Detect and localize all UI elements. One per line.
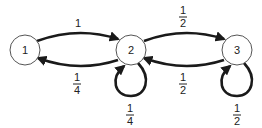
node-1: 1 <box>10 35 40 65</box>
node-2: 2 <box>116 35 146 65</box>
edge-2-to-1 <box>38 58 118 66</box>
node-1-label: 1 <box>22 44 28 56</box>
edge-1-to-2-label: 1 <box>75 17 81 29</box>
edge-2-to-3-label: 1 2 <box>179 4 187 29</box>
edge-2-to-3-den: 2 <box>180 17 186 29</box>
edge-3-self-num: 1 <box>234 102 240 114</box>
edge-3-to-2-label: 1 2 <box>179 71 187 96</box>
markov-diagram: 1 2 3 1 1 4 1 4 1 2 1 2 1 2 <box>0 0 262 128</box>
edge-2-to-3-num: 1 <box>180 4 186 16</box>
edge-2-to-1-label: 1 4 <box>73 71 81 96</box>
node-3-label: 3 <box>234 44 240 56</box>
edge-2-to-3 <box>144 33 224 41</box>
edge-2-to-1-den: 4 <box>74 84 80 96</box>
edge-3-to-2 <box>144 58 224 66</box>
edge-3-to-2-num: 1 <box>180 71 186 83</box>
node-3: 3 <box>222 35 252 65</box>
edge-3-self-loop <box>222 63 252 96</box>
edge-2-self-label: 1 4 <box>126 102 134 127</box>
edge-3-self-den: 2 <box>234 115 240 127</box>
edge-2-self-num: 1 <box>127 102 133 114</box>
edge-3-to-2-den: 2 <box>180 84 186 96</box>
edge-2-self-loop <box>116 63 146 96</box>
edge-2-self-den: 4 <box>127 115 133 127</box>
node-2-label: 2 <box>128 44 134 56</box>
edge-3-self-label: 1 2 <box>233 102 241 127</box>
edge-1-to-2 <box>37 33 118 41</box>
edge-2-to-1-num: 1 <box>74 71 80 83</box>
